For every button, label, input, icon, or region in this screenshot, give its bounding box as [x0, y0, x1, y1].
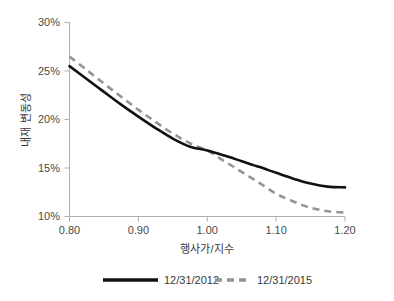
x-tick-label: 1.10 [265, 224, 286, 236]
x-tick-label: 1.00 [196, 224, 217, 236]
y-tick-label: 10% [38, 210, 60, 222]
legend-label-12-31-2012: 12/31/2012 [164, 274, 219, 286]
axes-group [70, 22, 346, 217]
chart-canvas: 30% 25% 20% 15% 10% 0.80 0.90 1.00 1.10 … [0, 0, 394, 301]
series-line-12-31-2015 [70, 56, 346, 212]
series-group [70, 56, 346, 212]
y-tick-label: 20% [38, 113, 60, 125]
x-tick-labels: 0.80 0.90 1.00 1.10 1.20 [59, 224, 356, 236]
y-tick-labels: 30% 25% 20% 15% 10% [38, 16, 60, 222]
series-line-12-31-2012 [70, 66, 346, 187]
chart-legend: 12/31/2012 12/31/2015 [103, 274, 312, 286]
implied-volatility-chart: 30% 25% 20% 15% 10% 0.80 0.90 1.00 1.10 … [0, 0, 394, 301]
x-tick-label: 0.90 [128, 224, 149, 236]
y-axis-title: 내재 변동성 [20, 93, 32, 146]
x-axis-title: 행사가/지수 [180, 243, 233, 255]
legend-label-12-31-2015: 12/31/2015 [257, 274, 312, 286]
x-tick-label: 0.80 [59, 224, 80, 236]
x-tick-marks [70, 217, 346, 222]
y-tick-marks [65, 23, 70, 217]
y-tick-label: 25% [38, 65, 60, 77]
x-tick-label: 1.20 [334, 224, 355, 236]
y-tick-label: 30% [38, 16, 60, 28]
y-tick-label: 15% [38, 162, 60, 174]
